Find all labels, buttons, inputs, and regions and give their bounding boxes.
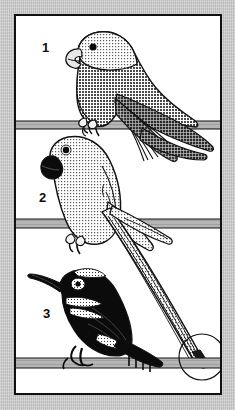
label-2: 2 — [39, 190, 46, 205]
label-3: 3 — [43, 306, 50, 321]
label-1: 1 — [42, 40, 49, 55]
bird-2-eye — [63, 147, 69, 153]
perch-bottom — [16, 358, 220, 368]
plate-canvas: 1 2 3 — [16, 16, 220, 393]
bird-3-eye — [75, 281, 80, 286]
bird-1-eye — [89, 43, 96, 50]
illustration-plate: 1 2 3 — [14, 14, 222, 395]
